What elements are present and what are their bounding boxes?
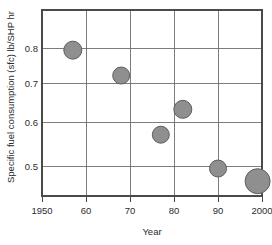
y-axis-title: Specific fuel consumption (sfc) lb/SHP h… [5,11,16,183]
x-tick-label-1990: 90 [213,205,224,216]
x-tick-label-1960: 60 [81,205,92,216]
data-point [210,160,227,177]
x-tick-label-1950: 1950 [31,205,52,216]
y-tick-label-0-5: 0.5 [25,161,38,172]
scatter-plot: Specific fuel consumption (sfc) lb/SHP h… [0,0,272,245]
x-axis-title: Year [142,226,161,237]
data-markers [64,41,270,194]
y-tick-label-0-7: 0.7 [25,78,38,89]
chart-container: Specific fuel consumption (sfc) lb/SHP h… [0,0,272,245]
plot-frame [42,10,262,196]
y-tick-label-0-8: 0.8 [25,43,38,54]
data-point [245,169,270,194]
x-tick-label-1980: 80 [169,205,180,216]
data-point [64,41,82,59]
data-point [174,100,192,118]
data-point [152,126,169,143]
x-tick-label-1970: 70 [125,205,136,216]
data-point [113,67,130,84]
x-tick-label-2000: 2000 [251,205,272,216]
y-tick-label-0-6: 0.6 [25,117,38,128]
